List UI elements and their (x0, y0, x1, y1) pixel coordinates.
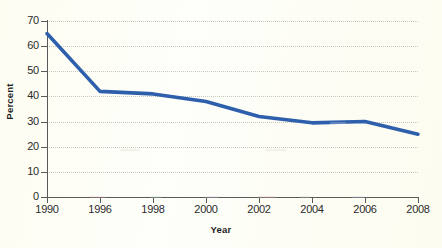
line-chart: 010203040506070 199019961998200020022004… (0, 0, 442, 248)
series-line-percent (47, 34, 418, 135)
data-series-layer (0, 0, 442, 248)
